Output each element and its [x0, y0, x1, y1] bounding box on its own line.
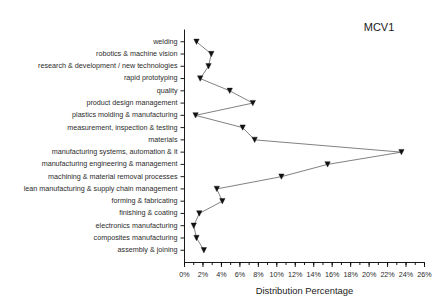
data-point-marker [206, 64, 211, 69]
data-point-marker [209, 51, 214, 56]
category-label: product design management [86, 98, 177, 107]
x-axis-tick-label: 8% [253, 270, 264, 279]
category-label: robotics & machine vision [96, 49, 178, 58]
category-label: plastics molding & manufacturing [72, 110, 177, 119]
x-axis-tick-label: 2% [198, 270, 209, 279]
category-label: lean manufacturing & supply chain manage… [24, 184, 178, 193]
series-line-mcv1 [194, 42, 402, 250]
category-label: forming & fabricating [112, 196, 178, 205]
category-label: research & development / new technologie… [38, 61, 178, 70]
data-point-marker [279, 174, 284, 179]
category-label: materials [148, 135, 178, 144]
x-axis-tick-label: 16% [325, 270, 340, 279]
category-label: assembly & joining [118, 245, 178, 254]
category-label: manufacturing engineering & management [42, 159, 178, 168]
category-label: manufacturing systems, automation & it [52, 147, 178, 156]
x-axis-tick-label: 14% [307, 270, 322, 279]
x-axis-tick-label: 24% [399, 270, 414, 279]
x-axis-tick-label: 4% [216, 270, 227, 279]
data-point-marker [227, 88, 232, 93]
distribution-percentage-chart: weldingrobotics & machine visionresearch… [0, 0, 436, 303]
category-label: finishing & coating [119, 208, 177, 217]
x-axis-title: Distribution Percentage [256, 285, 353, 296]
x-axis-tick-label: 26% [417, 270, 432, 279]
x-axis-tick-label: 0% [179, 270, 190, 279]
category-label: rapid prototyping [124, 73, 178, 82]
category-label: measurement, inspection & testing [67, 123, 177, 132]
data-point-marker [194, 235, 199, 240]
data-point-marker [250, 100, 255, 105]
x-axis-tick-label: 22% [380, 270, 395, 279]
x-axis-tick-label: 6% [235, 270, 246, 279]
data-point-marker [191, 223, 196, 228]
category-label: welding [152, 37, 177, 46]
x-axis-tick-label: 10% [270, 270, 285, 279]
category-label: electronics manufacturing [96, 221, 178, 230]
chart-canvas: weldingrobotics & machine visionresearch… [0, 0, 436, 303]
data-point-marker [220, 198, 225, 203]
x-axis-tick-label: 12% [288, 270, 303, 279]
series-annotation-label: MCV1 [364, 21, 395, 33]
category-label: machining & material removal processes [48, 172, 178, 181]
x-axis-tick-label: 18% [343, 270, 358, 279]
data-point-marker [197, 76, 202, 81]
data-point-marker [201, 248, 206, 253]
category-label: quality [157, 86, 178, 95]
data-point-marker [193, 113, 198, 118]
data-point-marker [214, 186, 219, 191]
category-label: composites manufacturing [94, 233, 178, 242]
x-axis-tick-label: 20% [362, 270, 377, 279]
data-point-marker [197, 211, 202, 216]
